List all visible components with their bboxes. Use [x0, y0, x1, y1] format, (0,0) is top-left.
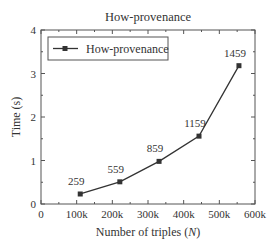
x-tick-label: 500k [208, 208, 231, 220]
x-tick-label: 400k [173, 208, 196, 220]
data-point-square-icon [78, 191, 83, 196]
y-tick-label: 0 [31, 198, 37, 210]
legend: How-provenance [48, 37, 169, 60]
x-tick-label: 300k [137, 208, 160, 220]
data-point-square-icon [157, 159, 162, 164]
legend-marker-square-icon [63, 46, 68, 51]
data-label: 559 [108, 163, 125, 175]
data-label: 259 [68, 175, 85, 187]
series-how-provenance: 25955985911591459 [68, 47, 246, 197]
data-label: 1459 [224, 47, 247, 59]
x-tick-label: 600k [244, 208, 267, 220]
data-label: 859 [147, 142, 164, 154]
y-tick-label: 2 [31, 111, 37, 123]
y-tick-label: 4 [31, 24, 37, 36]
data-point-square-icon [236, 63, 241, 68]
data-label: 1159 [184, 117, 206, 129]
chart-title: How-provenance [105, 10, 192, 24]
x-tick-label: 100k [66, 208, 89, 220]
chart: How-provenance 0100k200k300k400k500k600k… [0, 0, 276, 250]
data-point-square-icon [197, 134, 202, 139]
y-tick-label: 1 [31, 155, 37, 167]
data-point-square-icon [117, 179, 122, 184]
x-axis-label: Number of triples (N) [96, 225, 200, 239]
legend-label: How-provenance [86, 42, 169, 56]
y-tick-label: 3 [31, 68, 37, 80]
y-axis-label: Time (s) [9, 97, 23, 138]
series-line [80, 66, 239, 194]
x-tick-label: 200k [101, 208, 124, 220]
x-tick-label: 0 [38, 208, 44, 220]
